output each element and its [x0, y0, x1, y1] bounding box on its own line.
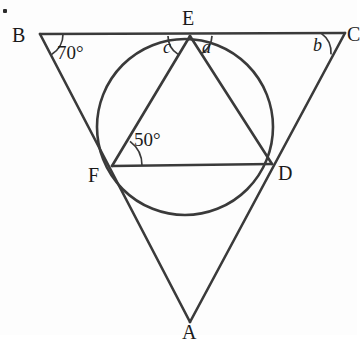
- vertex-label-C: C: [347, 24, 360, 44]
- segment-BC: [40, 33, 345, 34]
- vertex-label-A: A: [182, 322, 196, 342]
- corner-dot-mark: [3, 9, 7, 13]
- vertex-label-E: E: [182, 8, 194, 28]
- segment-FD: [112, 164, 272, 166]
- segment-BA: [40, 34, 190, 322]
- vertex-label-B: B: [12, 25, 25, 45]
- angle-label-c: c: [163, 38, 171, 56]
- angle-label-50: 50°: [134, 130, 161, 149]
- segment-CA: [190, 33, 345, 322]
- vertex-label-F: F: [88, 165, 99, 185]
- vertex-label-D: D: [278, 163, 292, 183]
- inscribed-circle: [97, 39, 273, 215]
- angle-label-b: b: [313, 36, 322, 54]
- angle-arc-c-b: [321, 33, 331, 54]
- angle-label-a: a: [202, 38, 211, 56]
- angle-label-70: 70°: [57, 43, 84, 62]
